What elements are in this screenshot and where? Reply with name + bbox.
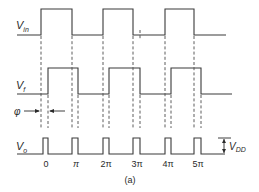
vin-waveform [17,9,226,35]
svg-text:3π: 3π [131,159,142,169]
phase-indicator: φ [14,106,65,117]
svg-text:0: 0 [43,159,48,169]
vin-label: Vin [16,19,29,33]
phase-detector-timing-diagram: φ Vin Vf Vo VDD 0 π 2π 3π 4π 5π (a) [0,0,259,192]
vo-waveform [17,138,225,154]
phase-label: φ [14,106,21,117]
svg-text:π: π [73,159,80,169]
svg-text:2π: 2π [100,159,111,169]
svg-text:4π: 4π [162,159,173,169]
dashed-guides [41,30,201,128]
vo-label: Vo [16,140,27,154]
svg-text:5π: 5π [192,159,203,169]
vf-label: Vf [16,79,26,93]
vdd-label: VDD [229,141,246,153]
vf-waveform [17,68,232,94]
vdd-amplitude-marker: VDD [218,138,246,153]
x-axis-ticks: 0 π 2π 3π 4π 5π [43,159,203,169]
figure-caption: (a) [125,175,136,185]
